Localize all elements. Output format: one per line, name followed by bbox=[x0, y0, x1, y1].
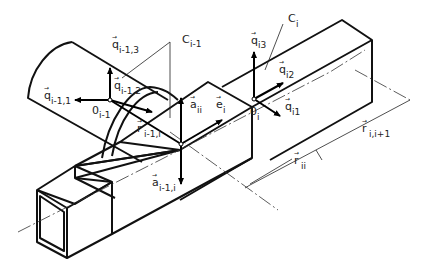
section-line bbox=[170, 132, 278, 210]
svg-text:i-1,2: i-1,2 bbox=[121, 86, 141, 96]
svg-text:→: → bbox=[251, 29, 256, 36]
svg-text:0: 0 bbox=[250, 105, 257, 118]
svg-text:→: → bbox=[285, 95, 290, 102]
svg-text:i2: i2 bbox=[286, 70, 294, 80]
label-r-next: r i,i+1 bbox=[362, 122, 390, 139]
svg-text:i: i bbox=[257, 112, 260, 122]
svg-text:i-1: i-1 bbox=[190, 39, 201, 49]
svg-text:i: i bbox=[296, 19, 299, 29]
label-a-prev: a i-1,i bbox=[152, 176, 176, 193]
label-q-i1: q i1 bbox=[285, 100, 300, 117]
svg-text:C: C bbox=[288, 12, 296, 25]
svg-text:ii: ii bbox=[197, 105, 202, 115]
svg-text:i-1,3: i-1,3 bbox=[119, 45, 139, 55]
svg-text:0: 0 bbox=[92, 104, 99, 117]
mechanism-diagram: C i-1 C i q i-1,3 q i-1,2 q i-1,1 0 i-1 … bbox=[0, 0, 434, 267]
label-o-prev: 0 i-1 bbox=[92, 104, 110, 120]
label-q-prev-3: q i-1,3 bbox=[112, 38, 139, 55]
section-line-2 bbox=[355, 70, 410, 100]
beam-body-i bbox=[222, 20, 372, 160]
svg-text:→: → bbox=[137, 117, 142, 124]
center-line bbox=[18, 50, 365, 232]
svg-text:C: C bbox=[182, 33, 190, 46]
svg-text:→: → bbox=[190, 93, 195, 100]
svg-text:ii: ii bbox=[301, 161, 306, 171]
svg-text:i-1: i-1 bbox=[99, 110, 110, 120]
svg-text:i-1,i: i-1,i bbox=[144, 129, 161, 139]
svg-text:→: → bbox=[152, 171, 157, 178]
svg-text:i: i bbox=[223, 105, 226, 115]
svg-text:i,i+1: i,i+1 bbox=[369, 129, 390, 139]
svg-text:→: → bbox=[279, 58, 284, 65]
svg-text:→: → bbox=[114, 74, 119, 81]
svg-text:i-1,1: i-1,1 bbox=[51, 96, 71, 106]
label-c-prev: C i-1 bbox=[182, 33, 201, 49]
svg-text:i3: i3 bbox=[258, 40, 266, 50]
svg-text:→: → bbox=[112, 33, 117, 40]
label-q-i3: q i3 bbox=[251, 34, 266, 50]
label-a-ii: a ii bbox=[190, 98, 202, 115]
dimension-lines bbox=[245, 100, 410, 188]
label-e-i: e i bbox=[216, 98, 226, 115]
svg-text:i1: i1 bbox=[292, 107, 300, 117]
svg-text:i-1,i: i-1,i bbox=[159, 183, 176, 193]
label-c-i: C i bbox=[288, 12, 299, 29]
svg-text:→: → bbox=[44, 84, 49, 91]
label-q-prev-1: q i-1,1 bbox=[44, 89, 71, 106]
svg-text:→: → bbox=[362, 117, 367, 124]
svg-text:→: → bbox=[216, 93, 221, 100]
label-q-i2: q i2 bbox=[279, 63, 294, 80]
svg-text:→: → bbox=[294, 149, 299, 156]
